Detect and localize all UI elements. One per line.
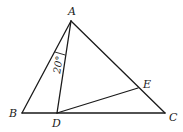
point-label-c: C <box>169 111 178 124</box>
triangle-diagram: 20° A B C D E <box>0 0 183 132</box>
point-label-b: B <box>8 107 17 120</box>
segment-ac <box>71 21 165 113</box>
point-label-d: D <box>51 117 61 130</box>
angle-arc-bad <box>55 52 66 55</box>
point-label-e: E <box>142 78 151 91</box>
segment-de <box>57 88 138 113</box>
point-label-a: A <box>67 5 76 18</box>
